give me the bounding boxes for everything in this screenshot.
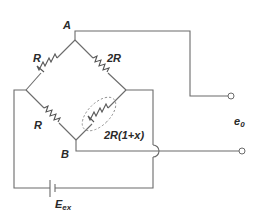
wire-battery-right [55,157,153,188]
wire-a-left [57,40,75,58]
bridge-circuit: A R 2R R 2R(1+x) B e0 Eex [0,0,261,217]
resistor-label-top-right: 2R [106,52,121,64]
wire-right-lower [108,90,126,108]
wire-b-to-output [76,140,239,151]
resistor-bottom-left [44,106,60,122]
node-label-a: A [62,19,71,31]
wire-b-right [76,124,92,140]
wire-left-node [14,90,50,188]
wire-a-right [75,40,93,58]
resistor-label-bottom-right: 2R(1+x) [103,129,144,141]
output-voltage-label: e0 [234,115,245,129]
wire-left-lower [26,90,44,108]
output-terminal-top[interactable] [228,93,234,99]
wire-b-left [59,123,76,140]
resistor-label-top-left: R [33,52,41,64]
output-terminal-bottom[interactable] [239,148,245,154]
wire-right-upper [108,73,126,90]
excitation-voltage-label: Eex [55,198,72,212]
wire-a-to-output [75,31,228,96]
wire-left-upper [26,73,41,90]
node-label-b: B [61,148,69,160]
resistor-label-bottom-left: R [34,119,42,131]
